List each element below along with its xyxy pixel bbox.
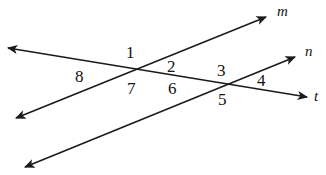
angle-label-5: 5 — [218, 91, 227, 108]
angle-label-3: 3 — [217, 62, 226, 79]
line-label-n: n — [305, 44, 313, 59]
lines-group — [8, 17, 307, 167]
line-label-m: m — [277, 4, 288, 19]
geometry-diagram: 1 2 3 4 5 6 7 8 m n t — [0, 0, 326, 175]
angle-label-8: 8 — [75, 68, 84, 85]
angle-label-7: 7 — [127, 80, 136, 97]
line-m — [16, 17, 266, 118]
angle-label-4: 4 — [257, 72, 266, 89]
geometry-canvas — [0, 0, 326, 175]
angle-label-1: 1 — [126, 44, 135, 61]
line-label-t: t — [314, 89, 318, 104]
angle-label-2: 2 — [167, 58, 176, 75]
angle-label-6: 6 — [168, 80, 177, 97]
